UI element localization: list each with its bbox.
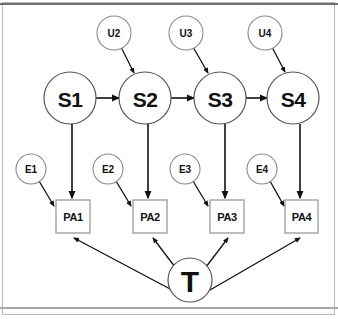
node-pa1[interactable]: PA1 <box>56 200 90 233</box>
node-e3[interactable]: E3 <box>170 154 200 184</box>
node-u4[interactable]: U4 <box>248 16 282 50</box>
e1-label: E1 <box>25 164 38 175</box>
pa3-label: PA3 <box>217 211 237 223</box>
node-s2[interactable]: S2 <box>119 72 171 124</box>
node-pa4[interactable]: PA4 <box>285 200 318 233</box>
node-e1[interactable]: E1 <box>16 154 46 184</box>
u2-label: U2 <box>108 28 121 39</box>
edge-e4-to-pa4 <box>270 181 284 206</box>
path-diagram-canvas: U2 U3 U4 S1 S2 S3 S4 E1 <box>0 0 338 319</box>
node-pa2[interactable]: PA2 <box>133 200 167 233</box>
edge-t-to-pa3 <box>206 238 228 267</box>
edge-e3-to-pa3 <box>193 181 208 206</box>
edge-u2-to-s2 <box>121 47 134 73</box>
node-pa3[interactable]: PA3 <box>210 200 244 233</box>
node-u2[interactable]: U2 <box>97 16 131 50</box>
node-s3[interactable]: S3 <box>194 72 246 124</box>
diagram-page: U2 U3 U4 S1 S2 S3 S4 E1 <box>0 0 338 319</box>
edge-e1-to-pa1 <box>39 181 54 206</box>
u4-label: U4 <box>259 28 272 39</box>
node-s1[interactable]: S1 <box>44 72 96 124</box>
edge-t-to-pa1 <box>74 238 172 290</box>
node-u3[interactable]: U3 <box>169 16 203 50</box>
u3-label: U3 <box>180 28 193 39</box>
e3-label: E3 <box>179 164 192 175</box>
t-label: T <box>181 265 199 298</box>
s3-label: S3 <box>208 88 233 111</box>
edge-t-to-pa2 <box>153 238 175 267</box>
pa2-label: PA2 <box>140 211 160 223</box>
edges-disturbance-to-state <box>121 47 285 73</box>
s2-label: S2 <box>133 88 158 111</box>
e2-label: E2 <box>102 164 115 175</box>
edge-t-to-pa4 <box>210 238 300 290</box>
edge-e2-to-pa2 <box>116 181 131 206</box>
edge-u3-to-s3 <box>193 47 208 73</box>
edge-u4-to-s4 <box>272 47 285 72</box>
node-e4[interactable]: E4 <box>247 154 277 184</box>
pa4-label: PA4 <box>292 211 313 223</box>
node-e2[interactable]: E2 <box>93 154 123 184</box>
pa1-label: PA1 <box>63 211 83 223</box>
node-s4[interactable]: S4 <box>267 72 319 124</box>
s4-label: S4 <box>281 88 307 111</box>
e4-label: E4 <box>256 164 269 175</box>
s1-label: S1 <box>58 88 84 111</box>
node-t[interactable]: T <box>168 258 212 302</box>
